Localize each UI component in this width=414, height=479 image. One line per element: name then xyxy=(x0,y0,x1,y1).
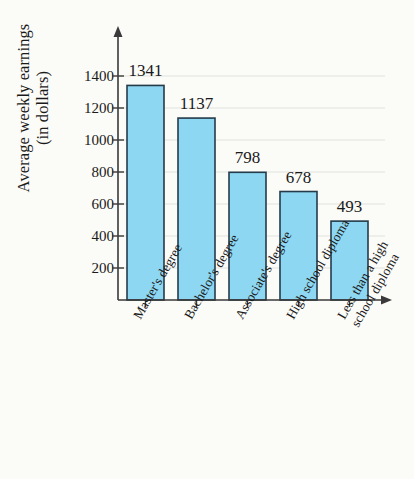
bar-value-label: 493 xyxy=(337,198,363,215)
bar-value-label: 798 xyxy=(235,149,261,166)
plot-area xyxy=(0,0,414,479)
bar-value-label: 1341 xyxy=(129,62,163,79)
bar-chart-figure: Average weekly earnings (in dollars) 200… xyxy=(0,0,414,479)
plot-svg xyxy=(0,0,414,479)
bar-value-label: 678 xyxy=(286,169,312,186)
y-axis-arrow-icon xyxy=(114,26,123,37)
bar-value-label: 1137 xyxy=(180,95,213,112)
x-axis-arrow-icon xyxy=(381,296,392,305)
